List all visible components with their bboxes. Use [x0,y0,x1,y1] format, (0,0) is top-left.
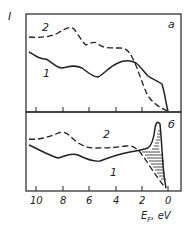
panel-a-curve-2-label: 2 [42,21,49,34]
y-axis-label: I [8,10,11,23]
x-axis-label: EF, eV [141,210,172,224]
x-tick-0: 0 [165,195,171,206]
panel-a-label: a [168,18,175,31]
x-tick-4: 4 [113,195,119,206]
x-tick-6: 6 [86,195,92,206]
panel-a-ticks [36,107,142,112]
x-tick-10: 10 [30,195,43,206]
x-axis-label-unit: , eV [151,210,172,221]
figure: I a б 2 1 [0,0,191,233]
x-tick-2: 2 [139,195,145,206]
panel-b-label: б [168,118,175,131]
panel-b-frame [26,112,181,191]
panel-a-curve-1 [29,52,168,111]
panel-a-curve-1-label: 1 [43,67,50,80]
x-tick-8: 8 [60,195,66,206]
panel-a-frame [26,14,181,112]
panel-b-curve-2 [29,132,166,188]
panel-b-curve-2-label: 2 [103,128,110,141]
panel-b-ticks [36,186,168,191]
panel-b-curve-1-label: 1 [110,166,117,179]
